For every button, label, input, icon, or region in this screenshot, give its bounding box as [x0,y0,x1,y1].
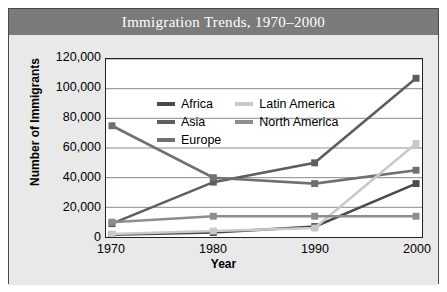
legend-swatch-icon [157,102,175,106]
chart-figure: Immigration Trends, 1970–2000 Number of … [8,8,439,284]
legend-item-north-america[interactable]: North America [235,115,338,129]
data-point-marker [108,219,115,226]
y-axis-tick-label: 80,000 [31,110,101,124]
data-point-marker [210,174,217,181]
chart-body: Number of Immigrants 020,00040,00060,000… [9,35,438,285]
data-point-marker [413,180,420,187]
series-line [112,216,416,222]
x-axis-tick-label: 1990 [285,242,345,256]
data-point-marker [108,122,115,129]
y-axis-tick-label: 40,000 [31,170,101,184]
data-point-marker [311,213,318,220]
y-axis-tick-label: 100,000 [31,80,101,94]
legend-column: AfricaAsiaEurope [157,97,221,147]
plot-area [105,58,423,238]
legend-column: Latin AmericaNorth America [235,97,338,147]
legend-swatch-icon [235,102,253,106]
legend-swatch-icon [157,138,175,142]
plot-svg [106,59,422,237]
x-axis-title: Year [9,257,438,271]
chart-title-banner: Immigration Trends, 1970–2000 [9,9,438,35]
legend-item-latin-america[interactable]: Latin America [235,97,338,111]
series-line [112,184,416,235]
x-axis-tick-label: 1980 [183,242,243,256]
data-point-marker [108,231,115,237]
page-title: Immigration Trends, 1970–2000 [122,14,325,31]
chart-legend: AfricaAsiaEuropeLatin AmericaNorth Ameri… [157,97,339,147]
series-north-america [108,213,419,226]
x-axis-tick-label: 1970 [81,242,141,256]
data-point-marker [413,75,420,82]
legend-swatch-icon [157,120,175,124]
data-point-marker [413,140,420,147]
data-point-marker [210,228,217,235]
legend-item-label: Asia [181,115,205,129]
series-latin-america [108,140,419,237]
legend-item-label: Africa [181,97,213,111]
legend-swatch-icon [235,120,253,124]
legend-item-asia[interactable]: Asia [157,115,221,129]
data-point-marker [311,159,318,166]
legend-item-label: Latin America [259,97,335,111]
legend-item-africa[interactable]: Africa [157,97,221,111]
y-axis-tick-label: 20,000 [31,200,101,214]
data-point-marker [413,167,420,174]
y-axis-tick-label: 120,000 [31,50,101,64]
x-axis-tick-label: 2000 [387,242,447,256]
legend-item-label: North America [259,115,338,129]
data-point-marker [210,213,217,220]
y-axis-tick-label: 60,000 [31,140,101,154]
legend-item-label: Europe [181,133,221,147]
data-point-marker [311,180,318,187]
data-point-marker [311,225,318,232]
legend-item-europe[interactable]: Europe [157,133,221,147]
data-point-marker [413,213,420,220]
